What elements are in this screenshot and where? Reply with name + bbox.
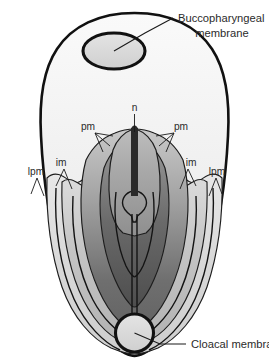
notochord-core [131, 128, 138, 196]
callout-buccopharyngeal-line1: Buccopharyngeal [178, 12, 264, 24]
diagram-canvas: n pm pm im im lp [0, 0, 269, 364]
label-n: n [132, 102, 138, 113]
callout-buccopharyngeal-line2: membrane [195, 27, 248, 39]
embryo-diagram-figure: n pm pm im im lp [0, 0, 269, 364]
label-im-left: im [56, 157, 67, 168]
leader-lpm-left [31, 178, 44, 196]
label-pm-right: pm [174, 121, 188, 132]
label-pm-left: pm [81, 121, 95, 132]
label-lpm-right: lpm [209, 166, 225, 177]
label-lpm-left: lpm [28, 166, 44, 177]
callout-cloacal-line1: Cloacal membrane [191, 338, 269, 350]
label-im-right: im [186, 157, 197, 168]
